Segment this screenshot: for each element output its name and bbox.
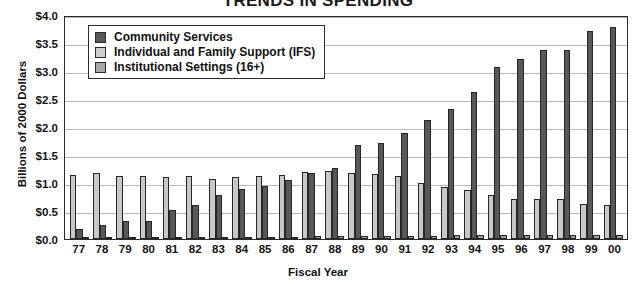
x-axis-tick: 77: [67, 243, 90, 255]
bar-group: [393, 17, 416, 239]
bar: [401, 133, 407, 239]
bar: [292, 237, 298, 239]
bar: [152, 237, 158, 239]
y-axis-tick: $3.5: [36, 38, 58, 50]
x-axis-title: Fiscal Year: [0, 266, 636, 278]
y-axis-tick: $2.0: [36, 122, 58, 134]
bar: [540, 50, 546, 239]
bar: [332, 168, 338, 239]
bar: [169, 210, 175, 239]
legend-swatch-icon: [95, 62, 106, 73]
bar: [517, 59, 523, 239]
chart-container: TRENDS IN SPENDING Billions of 2000 Doll…: [0, 0, 636, 295]
bar: [106, 237, 112, 239]
y-axis-tick: $0.5: [36, 206, 58, 218]
bar: [216, 195, 222, 239]
legend-label: Community Services: [114, 30, 233, 44]
bar: [477, 235, 483, 239]
x-axis-tick: 96: [510, 243, 533, 255]
y-axis-tick-labels: $4.0$3.5$3.0$2.5$2.0$1.5$1.0$0.5$0.0: [0, 0, 64, 256]
bar: [570, 235, 576, 239]
bar: [524, 235, 530, 239]
x-axis-tick: 94: [463, 243, 486, 255]
legend-swatch-icon: [95, 47, 106, 58]
x-axis-tick: 85: [253, 243, 276, 255]
bar: [199, 237, 205, 239]
bar: [222, 237, 228, 239]
y-axis-tick: $2.5: [36, 94, 58, 106]
bar: [338, 236, 344, 239]
x-axis-tick: 97: [533, 243, 556, 255]
bar: [361, 236, 367, 239]
bar-group: [416, 17, 439, 239]
y-axis-tick: $3.0: [36, 66, 58, 78]
bar: [285, 180, 291, 239]
chart-legend: Community ServicesIndividual and Family …: [88, 25, 325, 79]
x-axis-tick: 81: [160, 243, 183, 255]
bar: [384, 236, 390, 239]
x-axis-tick: 95: [486, 243, 509, 255]
bar: [192, 205, 198, 239]
bar: [245, 237, 251, 239]
x-axis-tick: 92: [416, 243, 439, 255]
bar-group: [602, 17, 625, 239]
bar-group: [370, 17, 393, 239]
bar: [424, 120, 430, 239]
x-axis-tick: 98: [556, 243, 579, 255]
bar-group: [509, 17, 532, 239]
bar: [355, 145, 361, 239]
bar: [239, 189, 245, 239]
legend-label: Institutional Settings (16+): [114, 60, 264, 74]
y-axis-tick: $4.0: [36, 10, 58, 22]
y-axis-tick: $1.5: [36, 150, 58, 162]
x-axis-tick: 88: [323, 243, 346, 255]
bar-group: [555, 17, 578, 239]
x-axis-tick: 00: [603, 243, 626, 255]
bar: [610, 27, 616, 239]
bar: [564, 50, 570, 239]
x-axis-tick: 89: [347, 243, 370, 255]
bar-group: [346, 17, 369, 239]
bar: [176, 237, 182, 239]
bar: [315, 236, 321, 239]
bar-group: [486, 17, 509, 239]
legend-label: Individual and Family Support (IFS): [114, 45, 315, 59]
legend-item: Community Services: [95, 30, 315, 44]
legend-swatch-icon: [95, 32, 106, 43]
x-axis-tick: 91: [393, 243, 416, 255]
legend-item: Individual and Family Support (IFS): [95, 45, 315, 59]
bar: [378, 143, 384, 239]
bar-group: [323, 17, 346, 239]
bar: [494, 67, 500, 239]
x-axis-tick: 78: [90, 243, 113, 255]
y-axis-tick: $1.0: [36, 178, 58, 190]
bar: [262, 186, 268, 239]
bar: [308, 173, 314, 239]
x-axis-tick: 84: [230, 243, 253, 255]
bar: [431, 236, 437, 239]
bar: [616, 235, 622, 239]
bar: [454, 235, 460, 239]
legend-item: Institutional Settings (16+): [95, 60, 315, 74]
bar: [471, 92, 477, 239]
x-axis-tick: 99: [580, 243, 603, 255]
bar-group: [532, 17, 555, 239]
bar: [547, 235, 553, 239]
x-axis-tick: 86: [277, 243, 300, 255]
bar-group: [578, 17, 601, 239]
bar: [268, 237, 274, 239]
x-axis-tick: 83: [207, 243, 230, 255]
bar: [83, 237, 89, 239]
chart-title: TRENDS IN SPENDING: [0, 0, 636, 11]
bar-group: [439, 17, 462, 239]
x-axis-tick: 93: [440, 243, 463, 255]
y-axis-tick: $0.0: [36, 234, 58, 246]
bar: [500, 235, 506, 239]
bar: [593, 235, 599, 239]
bar: [129, 237, 135, 239]
bar-group: [462, 17, 485, 239]
x-axis-tick-labels: 7778798081828384858687888990919293949596…: [64, 243, 628, 255]
x-axis-tick: 90: [370, 243, 393, 255]
x-axis-tick: 87: [300, 243, 323, 255]
x-axis-tick: 79: [114, 243, 137, 255]
